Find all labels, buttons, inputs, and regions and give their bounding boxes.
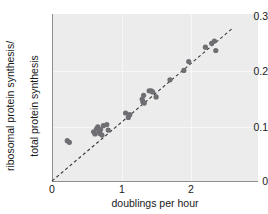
data-point	[106, 128, 111, 133]
data-point	[181, 68, 186, 73]
data-point	[186, 59, 191, 64]
x-tick-label-1: 1	[112, 184, 132, 195]
data-point	[99, 133, 104, 138]
y-tick-label-0.3: 0.3	[224, 11, 268, 22]
y-tick-label-0.2: 0.2	[224, 66, 268, 77]
data-point	[127, 112, 132, 117]
data-point	[203, 45, 208, 50]
data-point	[213, 48, 218, 53]
data-point	[67, 140, 72, 145]
data-point	[141, 93, 146, 98]
y-axis-label: ribosomal protein synthesis/ total prote…	[0, 21, 52, 191]
x-tick-label-2: 2	[181, 184, 201, 195]
x-axis-label: doublings per hour	[52, 197, 258, 209]
data-point	[104, 122, 109, 127]
y-axis-label-line1: ribosomal protein synthesis/	[4, 21, 16, 191]
data-point	[154, 94, 159, 99]
trend-line	[52, 28, 232, 181]
y-axis-label-line2: total protein synthesis	[28, 21, 40, 191]
y-tick-label-0.1: 0.1	[224, 122, 268, 133]
y-tick-label-0: 0	[224, 176, 268, 187]
data-point	[167, 77, 172, 82]
data-point	[150, 89, 155, 94]
scatter-chart-figure: 0.3 0.2 0.1 0 0 1 2 doublings per hour r…	[0, 0, 268, 214]
data-point	[142, 100, 147, 105]
data-point	[212, 38, 217, 43]
